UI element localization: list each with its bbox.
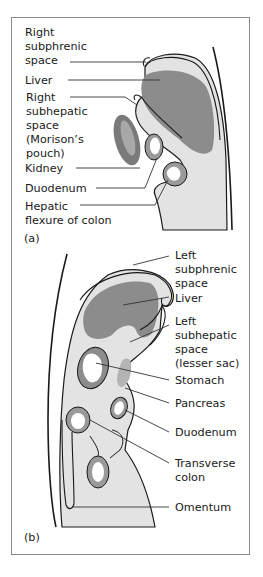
label-hepatic-flexure: Hepatic flexure of colon — [25, 200, 112, 227]
label-omentum: Omentum — [175, 501, 231, 514]
label-stomach: Stomach — [175, 374, 224, 387]
panel-a-labels: Right subphrenic space Liver Right subhe… — [24, 26, 112, 245]
panel-b-tag: (b) — [24, 531, 40, 544]
label-duodenum-a: Duodenum — [25, 182, 87, 195]
label-liver-b: Liver — [175, 292, 203, 305]
label-right-subhepatic-space: Right subhepatic space (Morison’s pouch) — [26, 91, 91, 160]
panel-a-tag: (a) — [24, 232, 40, 245]
label-right-subphrenic-space: Right subphrenic space — [25, 26, 90, 67]
panel-a-illustration — [109, 47, 232, 230]
label-transverse-colon: Transverse colon — [174, 457, 239, 484]
label-kidney: Kidney — [25, 162, 64, 175]
label-left-subphrenic-space: Left subphrenic space — [175, 249, 240, 290]
label-duodenum-b: Duodenum — [175, 426, 237, 439]
label-left-subhepatic-space: Left subhepatic space (lesser sac) — [175, 315, 240, 370]
label-pancreas: Pancreas — [175, 397, 225, 410]
peritoneal-spaces-diagram: Right subphrenic space Liver Right subhe… — [0, 0, 263, 577]
label-liver-a: Liver — [25, 74, 53, 87]
panel-b-illustration — [48, 254, 173, 527]
